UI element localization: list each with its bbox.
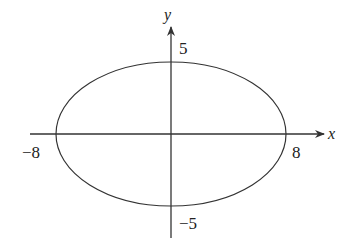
x-axis-label: x: [327, 125, 335, 142]
tick-label-x-pos: 8: [292, 143, 301, 162]
tick-label-y-pos: 5: [179, 39, 188, 58]
tick-label-y-neg: −5: [179, 214, 197, 233]
ellipse-diagram: x y −8 8 5 −5: [0, 0, 343, 249]
tick-label-x-neg: −8: [22, 143, 40, 162]
y-axis-label: y: [162, 6, 172, 24]
